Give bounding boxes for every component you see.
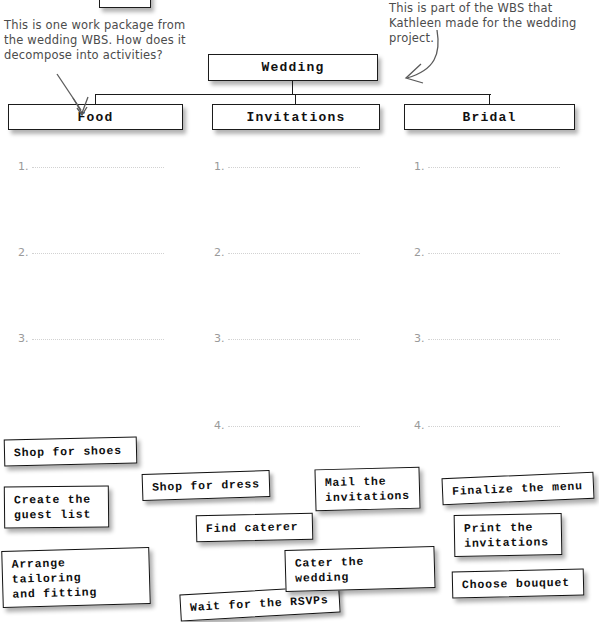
activity-card-choose-bouquet[interactable]: Choose bouquet [452,569,585,599]
list-item[interactable]: 4. [414,419,589,432]
activity-card-find-caterer[interactable]: Find caterer [196,513,314,543]
list-item[interactable]: 1. [414,160,589,173]
list-item-number: 1. [18,160,31,173]
list-item-writing-line[interactable] [32,252,164,254]
list-item-number: 2. [414,246,427,259]
list-item[interactable]: 2. [18,246,193,259]
list-item-writing-line[interactable] [228,338,360,340]
list-item-number: 1. [414,160,427,173]
list-item-number: 4. [414,419,427,432]
list-item-number: 3. [214,332,227,345]
connector-root-vertical [292,81,293,95]
list-item-number: 3. [414,332,427,345]
list-item-number: 2. [18,246,31,259]
list-item-writing-line[interactable] [428,425,560,427]
activity-card-cater-the-wedding[interactable]: Cater the wedding [284,546,435,592]
list-item[interactable]: 1. [18,160,193,173]
list-item-number: 1. [214,160,227,173]
wbs-box-invitations[interactable]: Invitations [212,104,380,130]
list-item-writing-line[interactable] [228,252,360,254]
list-item-writing-line[interactable] [228,166,360,168]
cropped-wbs-box [99,0,151,8]
annotation-arrow-to-bridal-icon [395,28,465,88]
list-item-writing-line[interactable] [32,166,164,168]
list-item[interactable]: 2. [414,246,589,259]
list-item-writing-line[interactable] [228,425,360,427]
wbs-box-bridal[interactable]: Bridal [404,104,575,130]
list-item-number: 2. [214,246,227,259]
connector-horizontal-bus [95,94,491,95]
activity-card-mail-the-invitations[interactable]: Mail the invitations [314,467,420,512]
activity-card-shop-for-dress[interactable]: Shop for dress [142,470,271,501]
activity-card-print-the-invitations[interactable]: Print the invitations [454,513,563,557]
list-item[interactable]: 3. [414,332,589,345]
list-item[interactable]: 3. [214,332,389,345]
list-item-number: 4. [214,419,227,432]
list-item-writing-line[interactable] [428,252,560,254]
activity-card-create-the-guest-list[interactable]: Create the guest list [4,485,109,528]
annotation-work-package-question: This is one work package from the weddin… [4,18,204,63]
list-item[interactable]: 2. [214,246,389,259]
worksheet-page: Wedding Food Invitations Bridal This is … [0,0,599,622]
list-item-writing-line[interactable] [428,338,560,340]
activity-card-shop-for-shoes[interactable]: Shop for shoes [4,436,138,466]
wbs-box-wedding[interactable]: Wedding [208,54,378,81]
list-item[interactable]: 1. [214,160,389,173]
list-item-writing-line[interactable] [32,338,164,340]
list-item-number: 3. [18,332,31,345]
list-item[interactable]: 3. [18,332,193,345]
annotation-arrow-to-food-icon [55,72,125,127]
activity-card-arrange-tailoring-and-fitting[interactable]: Arrange tailoring and fitting [1,547,151,608]
list-item[interactable]: 4. [214,419,389,432]
activity-card-finalize-the-menu[interactable]: Finalize the menu [442,472,595,505]
list-item-writing-line[interactable] [428,166,560,168]
